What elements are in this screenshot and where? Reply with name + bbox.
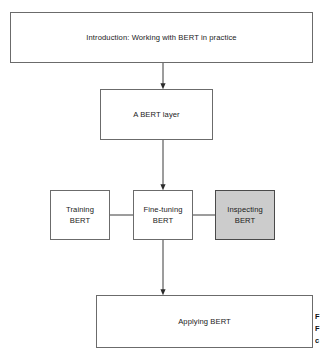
bert-flowchart: Introduction: Working with BERT in pract… xyxy=(0,0,326,362)
node-introduction[interactable]: Introduction: Working with BERT in pract… xyxy=(10,12,313,63)
node-training-bert[interactable]: Training BERT xyxy=(50,190,110,240)
margin-note-line-2: F xyxy=(315,323,326,335)
node-applying-bert[interactable]: Applying BERT xyxy=(96,295,313,348)
node-inspecting-bert[interactable]: Inspecting BERT xyxy=(215,190,275,240)
node-fine-tuning-bert[interactable]: Fine-tuning BERT xyxy=(133,190,193,240)
margin-note-line-1: F xyxy=(315,311,326,323)
margin-note-line-3: c xyxy=(315,335,326,347)
node-bert-layer[interactable]: A BERT layer xyxy=(100,89,213,140)
